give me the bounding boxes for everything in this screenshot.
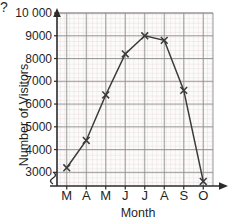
- x-axis-arrow-icon: [219, 182, 228, 190]
- plot-canvas: [0, 0, 235, 224]
- chart-figure: ? Number of Visitors Month 10 0009000800…: [0, 0, 235, 224]
- minor-gridlines: [57, 13, 213, 186]
- axis-break-icon: [51, 172, 56, 184]
